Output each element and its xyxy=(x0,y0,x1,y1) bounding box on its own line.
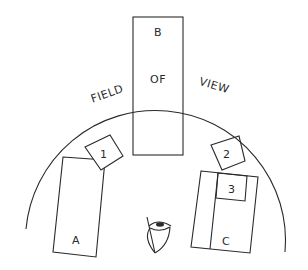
eye-icon xyxy=(147,217,171,253)
object-3-label: 3 xyxy=(228,183,235,196)
arc-label-field: FIELD xyxy=(89,82,125,106)
object-a-label: A xyxy=(72,234,80,247)
object-a: A xyxy=(53,157,105,257)
object-b: B xyxy=(133,17,183,155)
object-c-label: C xyxy=(222,235,230,248)
object-2-label: 2 xyxy=(223,148,230,161)
object-b-label: B xyxy=(154,26,162,39)
field-of-view-diagram: FIELD OF VIEW B A 1 2 C 3 xyxy=(0,0,308,270)
object-2: 2 xyxy=(211,136,245,170)
object-1: 1 xyxy=(85,135,123,170)
arc-label-of: OF xyxy=(150,73,166,86)
object-c: C xyxy=(191,171,258,253)
object-3: 3 xyxy=(216,173,247,201)
arc-label-view: VIEW xyxy=(198,75,231,96)
object-1-label: 1 xyxy=(100,148,107,161)
